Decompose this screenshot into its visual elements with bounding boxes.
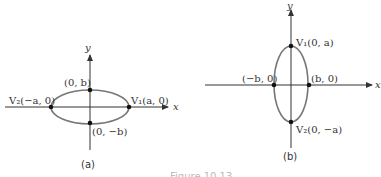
point-label-b-left: (−b, 0) [242,73,277,84]
caption-b: (b) [283,151,297,162]
point-label-a-top: (0, b) [64,77,91,88]
figure-caption: Figure 10.13 [170,171,232,177]
panel-a: y x (0, b) (0, −b) V₂(−a, 0) V₁(a, 0) (a… [5,42,179,170]
y-label-a: y [84,42,91,53]
x-label-b: x [375,79,381,90]
point-label-a-right: V₁(a, 0) [130,95,169,106]
point-label-a-bottom: (0, −b) [92,126,127,137]
point-label-b-bottom: V₂(0, −a) [295,124,342,135]
point-a-top [88,88,93,93]
point-label-b-right: (b, 0) [311,73,338,84]
point-label-a-left: V₂(−a, 0) [8,95,55,106]
point-a-bottom [88,121,93,126]
caption-a: (a) [81,159,95,170]
point-label-b-top: V₁(0, a) [295,37,334,48]
y-label-b: y [286,0,293,11]
ellipse-figure: y x (0, b) (0, −b) V₂(−a, 0) V₁(a, 0) (a… [0,0,381,177]
panel-b: y x V₁(0, a) V₂(0, −a) (−b, 0) (b, 0) (b… [205,0,381,162]
point-b-bottom [289,120,294,125]
x-label-a: x [173,101,179,112]
point-b-top [289,44,294,49]
